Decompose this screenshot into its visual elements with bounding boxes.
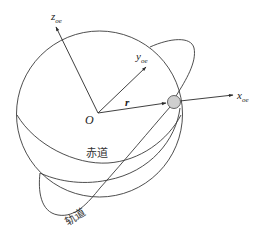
r-vector-label: r bbox=[125, 96, 130, 108]
orbit-curve-upper bbox=[150, 40, 195, 96]
orbit-curve-front bbox=[39, 107, 170, 215]
orbit-label: 轨道 bbox=[62, 205, 88, 229]
x-axis bbox=[180, 95, 233, 101]
satellite bbox=[168, 96, 181, 109]
position-vector-r bbox=[98, 103, 166, 113]
z-axis-label: zoe bbox=[50, 10, 62, 25]
y-axis-label: yoe bbox=[135, 50, 148, 65]
orbital-frame-diagram: O zoe yoe xoe r 赤道 轨道 bbox=[0, 0, 256, 237]
x-axis-label: xoe bbox=[236, 89, 249, 104]
earth-sphere bbox=[17, 31, 183, 197]
y-axis bbox=[98, 67, 146, 113]
z-axis bbox=[56, 27, 98, 113]
equator-label: 赤道 bbox=[86, 146, 108, 160]
origin-label: O bbox=[85, 113, 94, 127]
